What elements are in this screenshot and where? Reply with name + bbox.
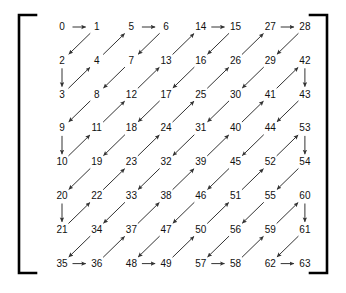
arrow-7-to-8 — [104, 67, 125, 88]
zigzag-index-39: 39 — [195, 157, 206, 167]
zigzag-index-19: 19 — [91, 157, 102, 167]
zigzag-index-33: 33 — [126, 191, 137, 201]
zigzag-index-3: 3 — [59, 90, 65, 100]
arrow-37-to-38 — [138, 203, 159, 224]
zigzag-index-7: 7 — [129, 56, 135, 66]
zigzag-index-49: 49 — [161, 259, 172, 269]
zigzag-index-48: 48 — [126, 259, 137, 269]
zigzag-diagram-svg — [0, 0, 346, 293]
arrow-49-to-50 — [173, 236, 194, 257]
zigzag-index-31: 31 — [195, 123, 206, 133]
zigzag-index-38: 38 — [161, 191, 172, 201]
zigzag-index-4: 4 — [94, 56, 100, 66]
zigzag-index-47: 47 — [161, 225, 172, 235]
bracket-left — [19, 15, 36, 273]
zigzag-index-35: 35 — [56, 259, 67, 269]
arrow-43-to-44 — [277, 101, 298, 122]
zigzag-scan-order-figure: 0156141527282471316262942381217253041439… — [0, 0, 346, 293]
zigzag-index-57: 57 — [195, 259, 206, 269]
zigzag-index-30: 30 — [230, 90, 241, 100]
zigzag-index-11: 11 — [91, 123, 101, 133]
zigzag-index-44: 44 — [265, 123, 276, 133]
zigzag-index-18: 18 — [126, 123, 137, 133]
zigzag-index-46: 46 — [195, 191, 206, 201]
arrow-15-to-16 — [208, 33, 229, 54]
arrow-11-to-12 — [103, 101, 124, 122]
arrow-1-to-2 — [69, 33, 90, 54]
arrow-54-to-55 — [277, 168, 298, 189]
zigzag-index-32: 32 — [161, 157, 172, 167]
zigzag-index-62: 62 — [265, 259, 276, 269]
arrow-26-to-27 — [242, 34, 263, 55]
zigzag-index-43: 43 — [299, 90, 310, 100]
arrow-33-to-34 — [104, 202, 125, 223]
arrow-55-to-56 — [242, 202, 263, 223]
zigzag-index-24: 24 — [161, 123, 172, 133]
zigzag-index-29: 29 — [265, 56, 276, 66]
zigzag-index-41: 41 — [265, 90, 276, 100]
arrow-24-to-25 — [173, 101, 194, 122]
zigzag-index-0: 0 — [59, 22, 65, 32]
zigzag-index-25: 25 — [195, 90, 206, 100]
arrow-6-to-7 — [138, 33, 159, 54]
arrow-47-to-48 — [138, 236, 159, 257]
zigzag-index-45: 45 — [230, 157, 241, 167]
zigzag-index-56: 56 — [230, 225, 241, 235]
zigzag-index-15: 15 — [230, 22, 241, 32]
arrow-19-to-20 — [69, 168, 90, 189]
zigzag-index-22: 22 — [91, 191, 102, 201]
zigzag-index-16: 16 — [195, 56, 206, 66]
arrow-61-to-62 — [277, 236, 298, 257]
arrow-59-to-60 — [277, 203, 298, 224]
arrow-41-to-42 — [277, 67, 298, 88]
arrow-44-to-45 — [242, 135, 263, 156]
zigzag-index-6: 6 — [163, 22, 169, 32]
zigzag-index-50: 50 — [195, 225, 206, 235]
zigzag-index-28: 28 — [299, 22, 310, 32]
arrow-56-to-57 — [208, 236, 229, 257]
arrow-30-to-31 — [208, 101, 229, 122]
arrow-29-to-30 — [242, 67, 263, 88]
zigzag-index-12: 12 — [126, 90, 137, 100]
arrow-38-to-39 — [173, 169, 194, 190]
zigzag-index-17: 17 — [161, 90, 172, 100]
zigzag-index-59: 59 — [265, 225, 276, 235]
zigzag-index-23: 23 — [126, 157, 137, 167]
arrow-25-to-26 — [207, 67, 228, 88]
arrow-28-to-29 — [277, 33, 298, 54]
arrow-36-to-37 — [103, 236, 124, 257]
arrow-39-to-40 — [207, 135, 228, 156]
zigzag-index-21: 21 — [56, 225, 67, 235]
zigzag-index-37: 37 — [126, 225, 137, 235]
arrow-3-to-4 — [68, 67, 89, 88]
zigzag-index-36: 36 — [91, 259, 102, 269]
zigzag-index-55: 55 — [265, 191, 276, 201]
arrow-10-to-11 — [68, 135, 89, 156]
arrow-23-to-24 — [138, 135, 159, 156]
arrow-18-to-19 — [104, 135, 125, 156]
arrow-32-to-33 — [138, 168, 159, 189]
zigzag-index-63: 63 — [299, 259, 310, 269]
arrow-21-to-22 — [68, 203, 89, 224]
arrow-50-to-51 — [207, 203, 228, 224]
zigzag-index-1: 1 — [94, 22, 100, 32]
arrow-52-to-53 — [277, 135, 298, 156]
arrow-22-to-23 — [103, 169, 124, 190]
zigzag-index-20: 20 — [56, 191, 67, 201]
arrow-12-to-13 — [138, 67, 159, 88]
zigzag-index-13: 13 — [161, 56, 172, 66]
arrow-16-to-17 — [173, 67, 194, 88]
zigzag-index-14: 14 — [195, 22, 206, 32]
arrow-4-to-5 — [103, 34, 124, 55]
arrow-8-to-9 — [69, 101, 90, 122]
zigzag-index-54: 54 — [299, 157, 310, 167]
zigzag-index-40: 40 — [230, 123, 241, 133]
bracket-right — [310, 15, 327, 273]
arrow-17-to-18 — [138, 101, 159, 122]
arrow-34-to-35 — [69, 236, 90, 257]
arrow-45-to-46 — [208, 168, 229, 189]
zigzag-index-60: 60 — [299, 191, 310, 201]
zigzag-index-61: 61 — [299, 225, 310, 235]
zigzag-index-58: 58 — [230, 259, 241, 269]
zigzag-index-53: 53 — [299, 123, 310, 133]
